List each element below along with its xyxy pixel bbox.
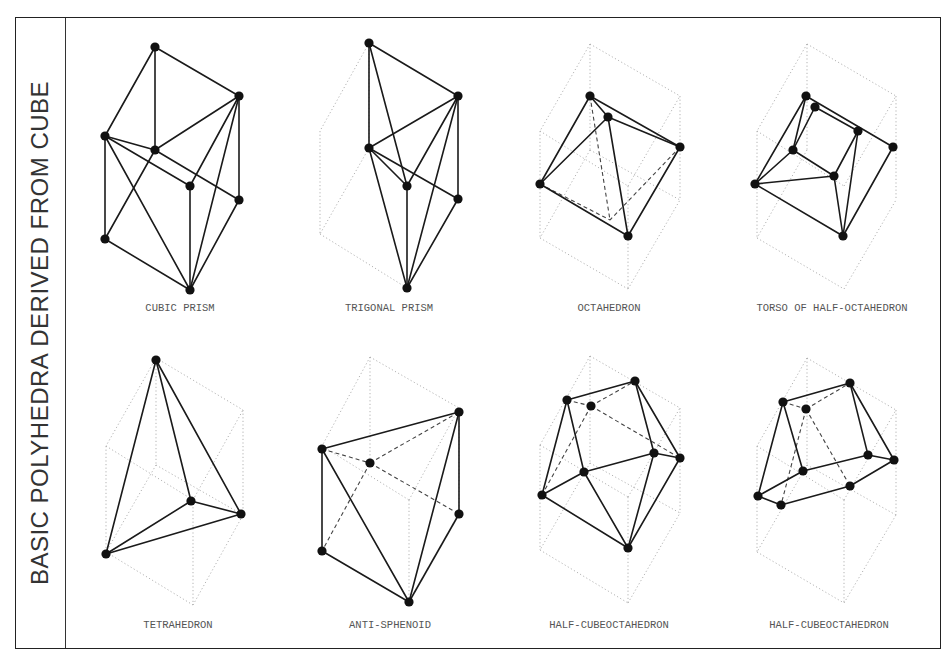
hidden-edges [322, 412, 459, 551]
half-cubeoctahedron-2-label: HALF-CUBEOCTAHEDRON [769, 619, 889, 631]
reference-cube [757, 358, 896, 603]
visible-edges [755, 96, 893, 236]
tetrahedron-label: TETRAHEDRON [143, 619, 212, 631]
reference-cube [320, 43, 407, 288]
octahedron-figure: OCTAHEDRON [535, 44, 684, 314]
reference-cube [540, 44, 680, 289]
half-cubeoctahedron-1-figure: HALF-CUBEOCTAHEDRON [537, 356, 684, 631]
visible-edges [369, 43, 458, 288]
cubic-prism-label: CUBIC PRISM [145, 302, 214, 314]
visible-edges [758, 383, 894, 505]
anti-sphenoid-label: ANTI-SPHENOID [349, 619, 431, 631]
visible-edges [322, 412, 459, 602]
trigonal-prism-label: TRIGONAL PRISM [345, 302, 433, 314]
half-cubeoctahedron-2-figure: HALF-CUBEOCTAHEDRON [753, 358, 898, 631]
tetrahedron-figure: TETRAHEDRON [101, 355, 245, 631]
reference-cube [322, 357, 459, 603]
cubic-prism-figure: CUBIC PRISM [100, 42, 243, 314]
reference-cube [540, 356, 680, 603]
hidden-edges [781, 383, 850, 505]
visible-edges [106, 360, 241, 554]
vertices [317, 407, 463, 606]
anti-sphenoid-figure: ANTI-SPHENOID [317, 357, 463, 631]
trigonal-prism-figure: TRIGONAL PRISM [320, 38, 463, 314]
torso-of-half-octahedron-figure: TORSO OF HALF-OCTAHEDRON [750, 44, 907, 314]
visible-edges [542, 381, 680, 548]
half-cubeoctahedron-1-label: HALF-CUBEOCTAHEDRON [549, 619, 669, 631]
vertices [750, 91, 897, 240]
octahedron-label: OCTAHEDRON [577, 302, 640, 314]
reference-cube [757, 44, 896, 289]
visible-edges [105, 47, 239, 290]
vertices [101, 355, 245, 558]
polyhedra-diagram: CUBIC PRISMTRIGONAL PRISMOCTAHEDRONTORSO… [0, 0, 951, 660]
vertices [364, 38, 462, 292]
hidden-edges [542, 381, 680, 495]
torso-of-half-octahedron-label: TORSO OF HALF-OCTAHEDRON [756, 302, 907, 314]
